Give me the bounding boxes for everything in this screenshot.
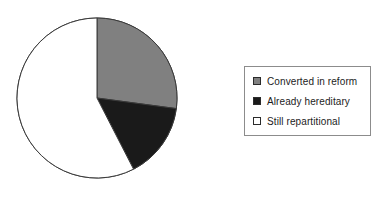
legend-swatch-icon [253,97,261,105]
legend-item-label: Already hereditary [267,96,350,107]
legend-item-converted-in-reform: Converted in reform [253,73,363,89]
legend-swatch-icon [253,117,261,125]
pie-chart-figure: Converted in reform Already hereditary S… [0,0,378,198]
legend-item-label: Converted in reform [267,76,357,87]
pie-chart-graphic [0,0,200,198]
pie-slice-converted-in-reform [97,18,177,109]
legend-item-already-hereditary: Already hereditary [253,93,363,109]
legend-item-still-repartitional: Still repartitional [253,113,363,129]
chart-legend: Converted in reform Already hereditary S… [244,66,371,136]
legend-swatch-icon [253,77,261,85]
legend-item-label: Still repartitional [267,116,340,127]
